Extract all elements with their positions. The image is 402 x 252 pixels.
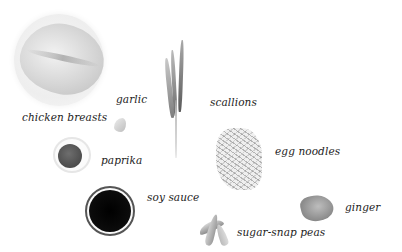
garlic-label: garlic [116,93,147,105]
scallion-root [175,100,177,158]
scallion-stalk [178,40,185,112]
soy-sauce-label: soy sauce [147,191,199,203]
paprika-image [58,144,82,168]
paprika-label: paprika [101,154,142,166]
ginger-label: ginger [345,201,380,213]
egg-noodles-label: egg noodles [275,145,340,157]
sugar-snap-peas-label: sugar-snap peas [237,226,325,238]
egg-noodles-image [216,128,262,190]
soy-sauce-image [89,190,131,232]
snap-pea-pod [214,223,229,246]
scallions-label: scallions [210,96,257,108]
chicken-breasts-label: chicken breasts [22,111,107,123]
ginger-image [298,191,336,224]
garlic-clove-image [114,118,126,132]
